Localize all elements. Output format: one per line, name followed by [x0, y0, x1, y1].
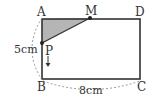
height-label: 5cm: [14, 43, 38, 56]
geometry-diagram: A M D P B C 5cm 8cm: [0, 0, 152, 101]
width-label: 8cm: [79, 84, 103, 97]
label-c: C: [137, 80, 146, 94]
point-p: [40, 41, 44, 45]
label-p: P: [45, 44, 53, 58]
label-m: M: [85, 4, 97, 18]
arrow-head-icon: [46, 63, 51, 67]
label-d: D: [135, 5, 145, 19]
label-b: B: [37, 80, 46, 94]
label-a: A: [36, 5, 46, 19]
